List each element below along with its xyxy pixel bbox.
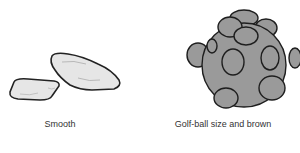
smooth-stones-illustration: [0, 0, 150, 153]
small-stone: [10, 79, 59, 100]
panel-smooth: Smooth: [0, 0, 150, 153]
panel-golf-ball: Golf-ball size and brown: [150, 0, 300, 153]
bumpy-stone-illustration: [150, 0, 300, 153]
caption-smooth: Smooth: [0, 119, 135, 129]
large-stone: [51, 53, 120, 90]
caption-golf-ball: Golf-ball size and brown: [148, 119, 298, 129]
